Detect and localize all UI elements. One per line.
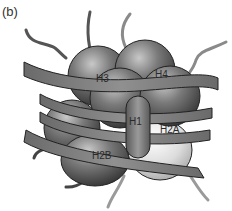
- label-h3: H3: [96, 73, 109, 84]
- label-h2a: H2A: [160, 124, 180, 135]
- nucleosome-diagram: H3 H4 H1 H2A H2B: [0, 0, 232, 211]
- label-h4: H4: [155, 69, 168, 80]
- histone-h1: [126, 96, 150, 158]
- label-h2b: H2B: [92, 150, 112, 161]
- label-h1: H1: [129, 116, 142, 127]
